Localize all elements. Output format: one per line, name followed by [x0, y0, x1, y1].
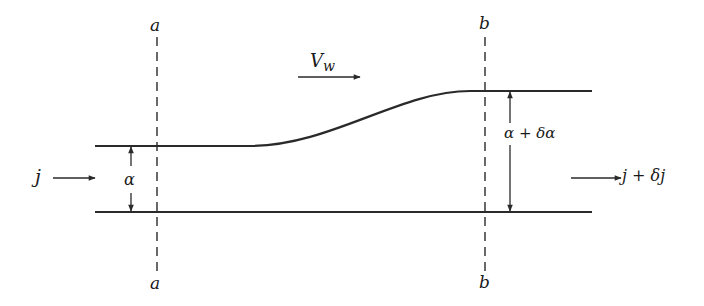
velocity-subscript: w [323, 58, 335, 74]
height-out-label: α + δα [504, 126, 555, 141]
section-b-top-label: b [479, 15, 490, 32]
section-a-bottom-label: a [150, 275, 160, 292]
section-b-bottom-label: b [479, 274, 490, 291]
velocity-label: Vw [310, 52, 335, 70]
velocity-main: V [310, 50, 323, 71]
outflow-label: j + δj [622, 168, 665, 184]
inflow-label: j [35, 167, 41, 186]
diagram-canvas: a a b b Vw j j + δj α α + δα [0, 0, 704, 306]
section-a-top-label: a [150, 17, 160, 34]
diagram-svg [0, 0, 704, 306]
height-in-label: α [124, 172, 135, 188]
